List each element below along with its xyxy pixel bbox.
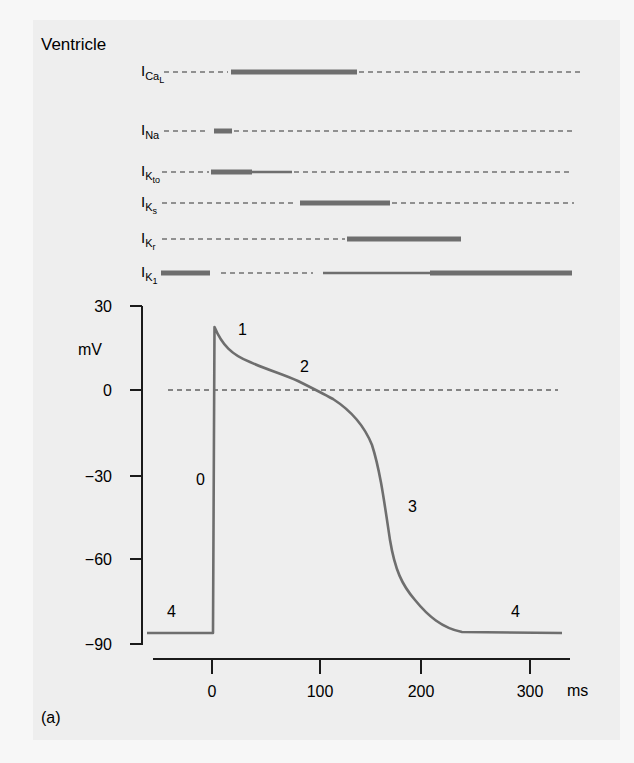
y-tick-label: 30	[94, 298, 112, 315]
y-axis: 300−30−60−90 mV	[78, 298, 142, 653]
phase-2-label: 2	[300, 358, 309, 375]
current-row-kr: IKr	[141, 229, 461, 252]
y-tick-label: −30	[85, 468, 112, 485]
current-row-cal: ICaL	[141, 62, 583, 85]
current-row-k1: IK1	[141, 263, 572, 286]
x-tick-label: 200	[408, 683, 435, 700]
current-label: IK1	[141, 263, 158, 286]
phase-4-label-rest: 4	[167, 603, 176, 620]
x-tick-label: 300	[517, 683, 544, 700]
current-row-na: INa	[141, 121, 573, 141]
y-tick-label: −60	[85, 551, 112, 568]
current-label: INa	[141, 121, 160, 141]
current-label: IKs	[141, 193, 158, 216]
current-label: IKr	[141, 229, 156, 252]
figure-title: Ventricle	[41, 35, 106, 54]
x-tick-label: 100	[307, 683, 334, 700]
current-label: ICaL	[141, 62, 164, 85]
phase-3-label: 3	[408, 498, 417, 515]
panel-label: (a)	[41, 709, 61, 726]
x-axis: 0100200300 ms	[153, 659, 588, 700]
ion-current-timeline: ICaLINaIKtoIKsIKrIK1	[141, 62, 583, 286]
phase-1-label: 1	[238, 321, 247, 338]
y-axis-label: mV	[78, 341, 102, 358]
x-axis-unit: ms	[567, 682, 588, 699]
y-tick-label: 0	[103, 382, 112, 399]
action-potential-figure: Ventricle ICaLINaIKtoIKsIKrIK1 300−30−60…	[0, 0, 634, 763]
y-tick-label: −90	[85, 636, 112, 653]
action-potential-trace	[147, 327, 562, 633]
current-row-kto: IKto	[141, 162, 572, 185]
x-tick-label: 0	[208, 683, 217, 700]
phase-4-label-end: 4	[511, 603, 520, 620]
phase-0-label: 0	[196, 471, 205, 488]
current-label: IKto	[141, 162, 160, 185]
current-row-ks: IKs	[141, 193, 574, 216]
